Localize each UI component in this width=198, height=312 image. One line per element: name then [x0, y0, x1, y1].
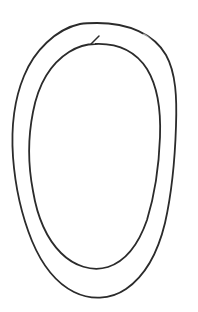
sketch-canvas — [0, 0, 198, 312]
sketch-drawing — [0, 0, 198, 312]
